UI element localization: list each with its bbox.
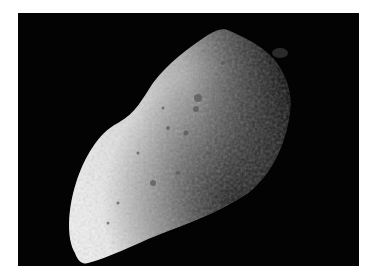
asteroid-photo [18, 13, 359, 266]
asteroid-illustration [18, 13, 359, 266]
